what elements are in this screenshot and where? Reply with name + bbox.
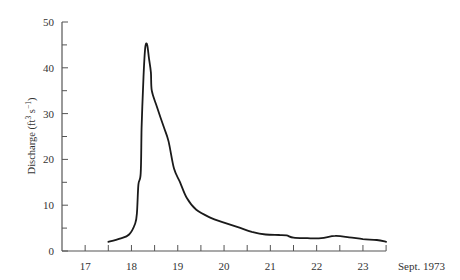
discharge-line (108, 43, 386, 242)
x-tick-label: 22 (311, 260, 322, 272)
x-tick-label: 23 (357, 260, 369, 272)
y-axis: 01020304050 (43, 16, 68, 257)
y-axis-title: Discharge (ft3 s−1) (24, 97, 39, 174)
y-tick-label: 40 (43, 62, 55, 74)
x-tick-label: 17 (80, 260, 92, 272)
x-tick-label: 20 (219, 260, 231, 272)
y-tick-label: 0 (49, 245, 55, 257)
y-tick-label: 10 (43, 199, 55, 211)
discharge-chart: 01020304050 17181920212223 Discharge (ft… (0, 0, 460, 280)
x-tick-label: 21 (265, 260, 276, 272)
y-tick-label: 20 (43, 153, 55, 165)
x-tick-label: 19 (172, 260, 184, 272)
y-tick-label: 50 (43, 16, 55, 28)
x-tick-label: 18 (126, 260, 138, 272)
x-axis-title: Sept. 1973 (398, 260, 446, 272)
discharge-series (108, 43, 386, 242)
x-axis: 17181920212223 (62, 245, 386, 272)
y-tick-label: 30 (43, 108, 55, 120)
